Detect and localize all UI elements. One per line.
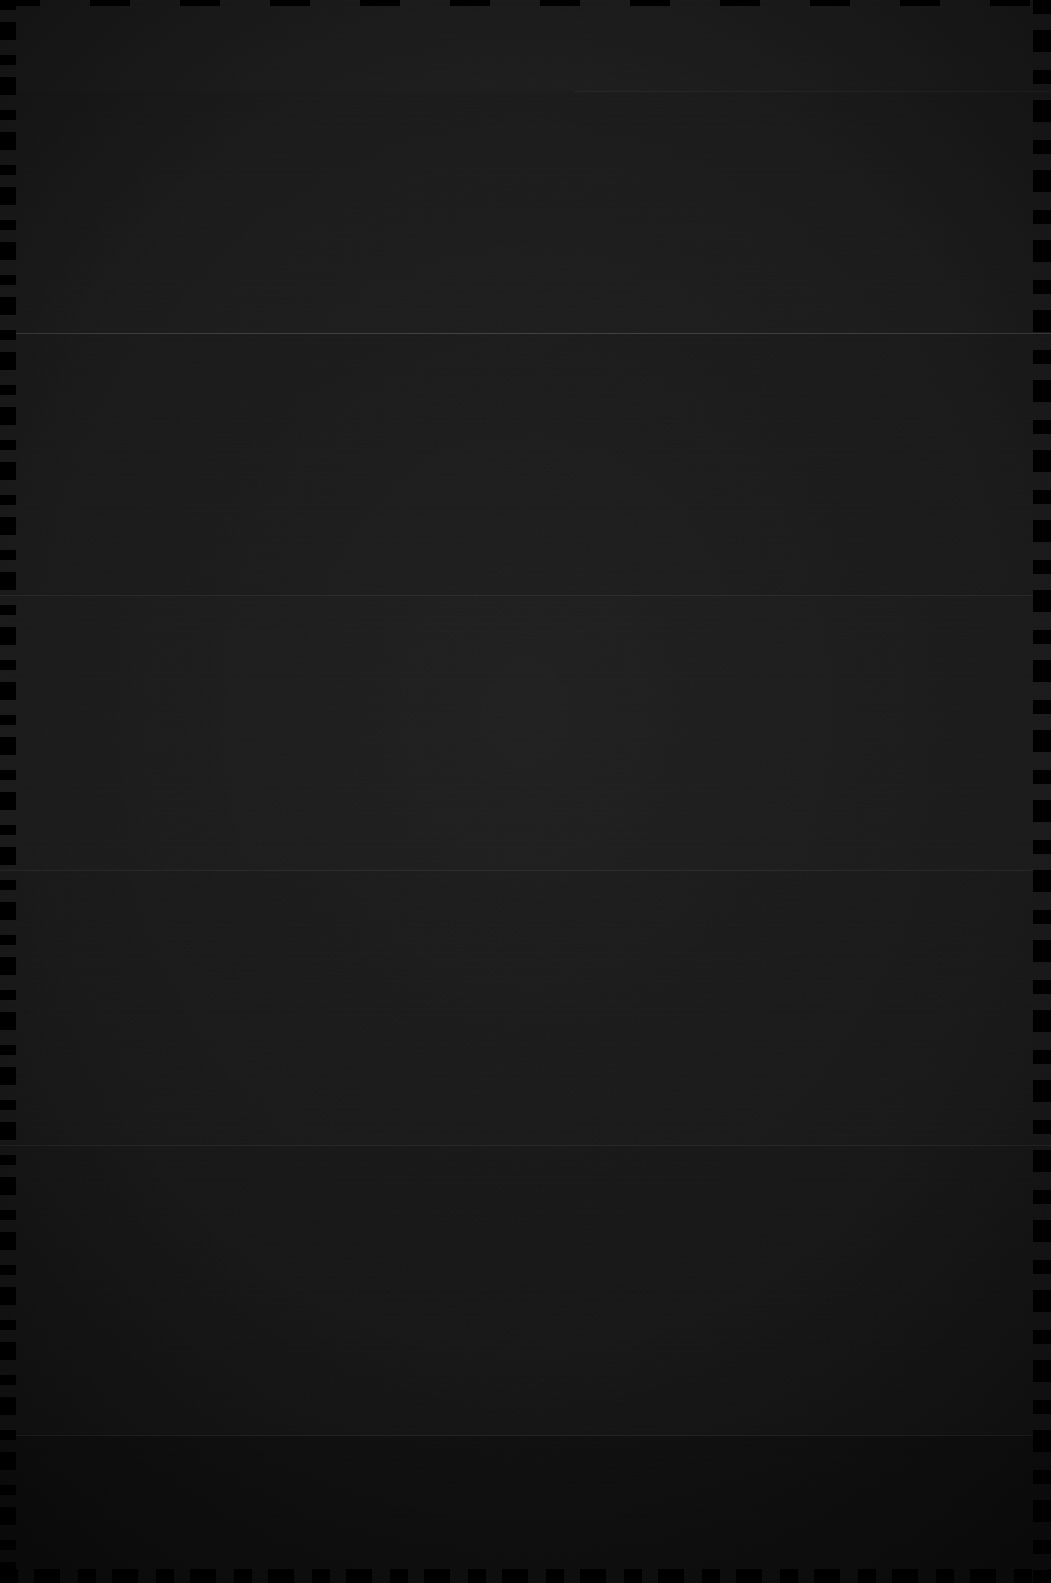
divider-quaternary bbox=[0, 1145, 1051, 1146]
divider-secondary bbox=[0, 595, 1051, 596]
divider-quinary bbox=[0, 1435, 1051, 1436]
band-middle bbox=[0, 595, 1051, 870]
screen-capture: Near-black dark-theme screen capture wit… bbox=[0, 0, 1051, 1583]
band-lower-middle bbox=[0, 870, 1051, 1145]
divider-tertiary bbox=[0, 870, 1051, 871]
divider-primary bbox=[0, 333, 1051, 334]
band-upper bbox=[0, 91, 1051, 333]
divider-partial-top bbox=[575, 91, 1051, 92]
band-lower bbox=[0, 1145, 1051, 1435]
band-upper-middle bbox=[0, 333, 1051, 595]
band-top bbox=[0, 0, 1051, 91]
band-bottom bbox=[0, 1435, 1051, 1583]
